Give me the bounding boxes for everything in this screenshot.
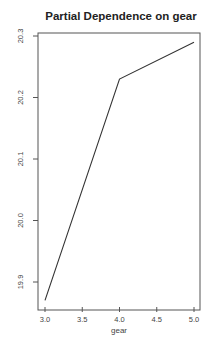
plot-box [38,33,200,310]
partial-dependence-chart: Partial Dependence on gear 19.920.020.12… [0,0,220,347]
y-tick-label: 20.3 [16,29,25,44]
x-tick-label: 4.5 [152,315,162,324]
y-tick-label: 20.1 [16,152,25,167]
x-tick-label: 5.0 [189,315,199,324]
y-tick-label: 20.2 [16,90,25,105]
x-tick-label: 4.0 [114,315,124,324]
chart-title: Partial Dependence on gear [45,10,197,22]
x-axis-label: gear [111,326,127,335]
partial-dependence-line [45,42,194,300]
x-tick-label: 3.5 [77,315,87,324]
y-axis: 19.920.020.120.220.3 [16,29,38,290]
x-tick-label: 3.0 [40,315,50,324]
y-tick-label: 19.9 [16,275,25,290]
y-tick-label: 20.0 [16,213,25,228]
